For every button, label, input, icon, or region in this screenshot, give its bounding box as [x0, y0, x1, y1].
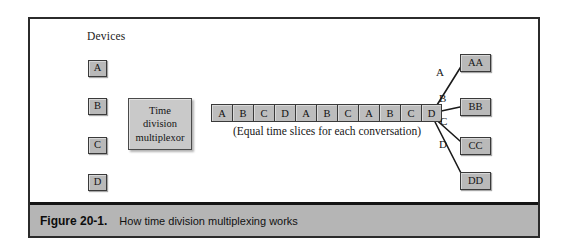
time-slice-cell: A [211, 104, 232, 122]
time-slice-cell: C [400, 104, 421, 122]
device-box-c: C [88, 137, 107, 154]
device-box-d: D [88, 174, 107, 191]
branch-label-c: C [440, 116, 447, 127]
devices-label: Devices [87, 30, 125, 42]
time-slice-caption: (Equal time slices for each conversation… [210, 125, 444, 137]
endpoint-box-dd: DD [460, 172, 491, 190]
endpoint-box-bb: BB [460, 98, 491, 116]
time-slice-cell: A [358, 104, 379, 122]
time-slice-cell: A [295, 104, 316, 122]
time-slice-cell: B [379, 104, 400, 122]
multiplexor-box: Time division multiplexor [128, 98, 192, 150]
time-slice-cell: D [274, 104, 295, 122]
multiplexor-label-line1: Time [149, 104, 171, 117]
device-box-b: B [88, 98, 107, 115]
branch-label-d: D [439, 139, 447, 150]
branch-label-a: A [436, 67, 444, 78]
time-slice-cell: D [421, 104, 442, 122]
multiplexor-label-line3: multiplexor [136, 131, 185, 144]
figure-frame: Devices A B C D Time division multiplexo… [28, 17, 540, 238]
time-slice-cell: B [316, 104, 337, 122]
time-slice-strip: A B C D A B C A B C D [211, 104, 442, 122]
device-box-a: A [88, 60, 107, 77]
figure-illustration: Devices A B C D Time division multiplexo… [30, 19, 538, 202]
branch-label-b: B [439, 93, 446, 104]
figure-caption-bar: Figure 20-1. How time division multiplex… [30, 202, 538, 236]
figure-caption-text: How time division multiplexing works [119, 215, 298, 227]
time-slice-cell: C [253, 104, 274, 122]
endpoint-box-aa: AA [460, 54, 491, 72]
time-slice-cell: C [337, 104, 358, 122]
multiplexor-label-line2: division [143, 117, 177, 130]
figure-caption-number: Figure 20-1. [40, 214, 107, 228]
endpoint-box-cc: CC [460, 137, 491, 155]
time-slice-cell: B [232, 104, 253, 122]
